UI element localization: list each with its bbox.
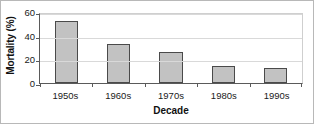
y-axis-tick-labels: 0204060	[17, 1, 37, 89]
plot-area	[39, 13, 303, 84]
x-tick-label: 1990s	[250, 89, 303, 103]
y-tick-mark	[36, 14, 40, 15]
gridline	[40, 61, 302, 62]
x-tick-label: 1960s	[92, 89, 145, 103]
x-tick-label: 1970s	[145, 89, 198, 103]
y-tick-mark	[36, 38, 40, 39]
x-tick-mark	[250, 83, 251, 87]
x-axis-tick-labels: 1950s1960s1970s1980s1990s	[39, 89, 303, 103]
bar	[55, 21, 78, 83]
bar-slot	[92, 14, 144, 83]
y-tick-label: 40	[24, 32, 35, 42]
y-tick-label: 60	[24, 8, 35, 18]
bar	[159, 52, 182, 83]
bar	[264, 68, 287, 83]
x-tick-mark	[197, 83, 198, 87]
bar-group	[40, 14, 302, 83]
gridline	[40, 14, 302, 15]
bar	[107, 44, 130, 83]
x-axis-title: Decade	[39, 105, 303, 117]
bar	[212, 66, 235, 83]
y-axis-title-text: Mortality (%)	[5, 16, 16, 75]
gridline	[40, 38, 302, 39]
y-tick-label: 0	[30, 79, 35, 89]
bar-slot	[145, 14, 197, 83]
x-tick-label: 1980s	[197, 89, 250, 103]
bar-chart-figure: Mortality (%) 0204060 1950s1960s1970s198…	[0, 0, 314, 124]
x-tick-mark	[40, 83, 41, 87]
y-tick-label: 20	[24, 56, 35, 66]
y-tick-mark	[36, 61, 40, 62]
y-tick-mark	[36, 85, 40, 86]
bar-slot	[197, 14, 249, 83]
x-tick-label: 1950s	[39, 89, 92, 103]
x-tick-mark	[92, 83, 93, 87]
bar-slot	[250, 14, 302, 83]
bar-slot	[40, 14, 92, 83]
x-tick-mark	[301, 83, 302, 87]
x-tick-mark	[145, 83, 146, 87]
